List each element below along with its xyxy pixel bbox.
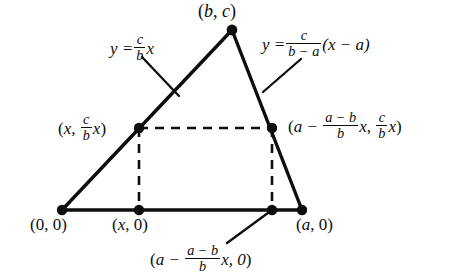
x-foot-label: (x, 0) — [112, 216, 148, 233]
fraction-c-over-b: cb — [81, 112, 92, 142]
dot-left-rect-corner — [134, 123, 144, 133]
dot-a-vertex — [297, 205, 307, 215]
apex-vertex-label: (b, c) — [198, 2, 236, 20]
left-side-equation: y =cbx — [110, 32, 154, 62]
origin-vertex-label: (0, 0) — [30, 216, 67, 233]
left-rectangle-corner-label: (x, cbx) — [58, 112, 106, 142]
fraction-c-over-b: cb — [376, 110, 387, 140]
dot-x-foot — [134, 205, 144, 215]
fraction-c-over-b: cb — [134, 32, 145, 62]
triangle-diagram: (b, c) y =cbx y =cb − a(x − a) (x, cbx) … — [0, 0, 458, 276]
left-equation-leader — [142, 57, 179, 96]
fraction-a-minus-b-over-b: a − bb — [323, 110, 358, 140]
dot-right-foot — [267, 205, 277, 215]
right-foot-label: (a − a − bbx, 0) — [150, 243, 251, 273]
right-side-equation: y =cb − a(x − a) — [262, 28, 370, 58]
inscribed-rectangle — [139, 128, 272, 210]
right-rectangle-corner-label: (a − a − bbx, cbx) — [288, 110, 402, 140]
right-equation-leader — [263, 59, 301, 92]
dot-right-rect-corner — [267, 123, 277, 133]
dot-origin — [57, 205, 67, 215]
a-vertex-label: (a, 0) — [296, 216, 333, 233]
fraction-a-minus-b-over-b: a − bb — [185, 243, 220, 273]
dot-apex — [227, 25, 238, 36]
bottom-label-leader — [227, 210, 272, 243]
fraction-c-over-b-minus-a: cb − a — [286, 28, 321, 58]
